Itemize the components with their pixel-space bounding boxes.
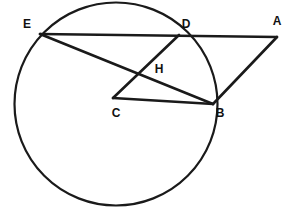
point-label-a: A xyxy=(273,14,282,28)
point-label-e: E xyxy=(23,17,31,31)
geometry-figure: E D A B C H xyxy=(0,0,288,208)
geometry-diagram-canvas: E D A B C H xyxy=(0,0,288,208)
segment-e-h-b xyxy=(40,34,213,104)
segment-e-d-a xyxy=(40,34,277,37)
point-label-d: D xyxy=(182,17,191,31)
point-label-b: B xyxy=(216,106,225,120)
segment-a-b xyxy=(213,37,277,104)
point-label-c: C xyxy=(112,106,121,120)
point-label-h: H xyxy=(155,62,164,76)
